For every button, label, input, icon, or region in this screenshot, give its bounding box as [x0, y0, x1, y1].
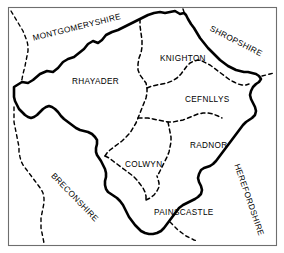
hundred-label-colwyn: COLWYN [125, 161, 162, 169]
border-shropshire-east [262, 73, 274, 76]
border-herefordshire-south [170, 222, 198, 241]
border-breconshire-west [14, 107, 44, 243]
hundred-label-knighton: KNIGHTON [160, 55, 206, 63]
hundred-label-radnor: RADNOR [190, 142, 228, 150]
map-container: RHAYADER KNIGHTON CEFNLLYS RADNOR COLWYN… [0, 0, 284, 253]
radnorshire-county-outline [14, 11, 261, 234]
border-montgomeryshire-west [11, 11, 28, 83]
hundred-label-cefnllys: CEFNLLYS [185, 96, 230, 104]
hundred-label-painscastle: PAINSCASTLE [154, 209, 214, 217]
hundred-label-rhayader: RHAYADER [72, 78, 119, 86]
